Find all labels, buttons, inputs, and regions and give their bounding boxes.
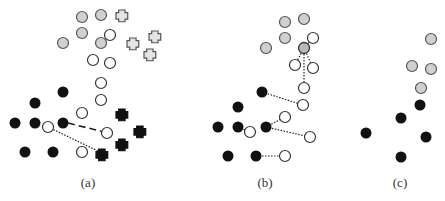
panel-b-black-point bbox=[223, 151, 234, 162]
panel-b-dotted-link bbox=[266, 127, 310, 137]
panel-c-black-point bbox=[361, 128, 372, 139]
panel-a-black-point bbox=[20, 147, 31, 158]
panel-a-white-point bbox=[77, 147, 88, 158]
panel-a-black-point bbox=[48, 147, 59, 158]
panel-a-gray-point bbox=[77, 12, 88, 23]
panel-a-black-plus-point bbox=[116, 139, 128, 151]
panel-a-white-point bbox=[102, 128, 113, 139]
panel-c-black-point bbox=[396, 152, 407, 163]
panel-a-black-point bbox=[30, 118, 41, 129]
panel-c-gray-point bbox=[407, 61, 418, 72]
panel-c-black-point bbox=[421, 132, 432, 143]
panel-b-white-point bbox=[290, 60, 301, 71]
panel-b-black-point bbox=[233, 122, 244, 133]
panel-a-black-point bbox=[58, 118, 69, 129]
panel-b-black-point bbox=[257, 87, 268, 98]
panel-a-outline-plus-point bbox=[149, 31, 161, 43]
panel-c-gray-point bbox=[426, 64, 437, 75]
panel-b-black-point bbox=[251, 151, 262, 162]
panel-b-white-point bbox=[308, 63, 319, 74]
panel-a-white-point bbox=[105, 30, 116, 41]
panel-a-outline-plus-point bbox=[144, 49, 156, 61]
panel-c-black-point bbox=[396, 113, 407, 124]
panel-b-white-point bbox=[299, 83, 310, 94]
panel-b-hub-point bbox=[299, 43, 310, 54]
panel-b-gray-point bbox=[280, 33, 291, 44]
panel-a-white-point bbox=[96, 78, 107, 89]
panel-a-gray-point bbox=[96, 38, 107, 49]
panel-a-white-point bbox=[105, 58, 116, 69]
panel-a-dashed-link bbox=[68, 123, 104, 132]
panel-a-outline-plus-point bbox=[127, 38, 139, 50]
panel-a-black-plus-point bbox=[134, 126, 146, 138]
panel-b-white-point bbox=[308, 33, 319, 44]
panel-a-white-point bbox=[88, 55, 99, 66]
panel-a-black-point bbox=[10, 118, 21, 129]
panel-b-black-point bbox=[233, 102, 244, 113]
panel-a-label: (a) bbox=[68, 175, 108, 191]
panel-a-gray-point bbox=[58, 38, 69, 49]
panel-a-black-point bbox=[30, 98, 41, 109]
panel-a-white-point bbox=[77, 108, 88, 119]
panel-b-gray-point bbox=[261, 43, 272, 54]
panel-a-black-plus-point bbox=[116, 109, 128, 121]
panel-b-gray-point bbox=[280, 17, 291, 28]
panel-c-gray-point bbox=[426, 34, 437, 45]
clustering-diagram bbox=[0, 0, 445, 201]
panel-c-gray-point bbox=[416, 83, 427, 94]
panel-a-black-point bbox=[58, 87, 69, 98]
panel-b-black-point bbox=[213, 122, 224, 133]
panel-b-white-point bbox=[305, 132, 316, 143]
panel-a-outline-plus-point bbox=[116, 10, 128, 22]
panel-a-gray-point bbox=[77, 28, 88, 39]
panel-b-white-point bbox=[280, 151, 291, 162]
panel-c-label: (c) bbox=[380, 175, 420, 191]
panel-b-white-point bbox=[280, 112, 291, 123]
panel-b-black-point bbox=[261, 122, 272, 133]
panel-b-gray-point bbox=[299, 14, 310, 25]
panel-b-label: (b) bbox=[245, 175, 285, 191]
panel-a-white-point bbox=[43, 122, 54, 133]
panel-b-white-point bbox=[298, 100, 309, 111]
panel-a-white-point bbox=[96, 95, 107, 106]
panel-a-gray-point bbox=[96, 10, 107, 21]
panel-b-dotted-link bbox=[262, 92, 303, 105]
panel-c-black-point bbox=[415, 100, 426, 111]
panel-b-white-point bbox=[245, 127, 256, 138]
